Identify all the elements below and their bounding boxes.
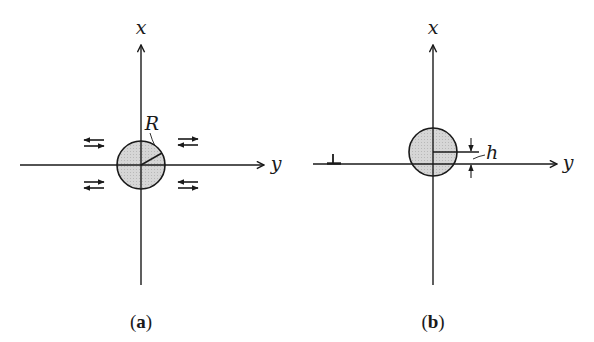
panel-a-caption: (a) (130, 311, 152, 333)
radius-label: R (144, 112, 159, 134)
y-axis-label: y (562, 151, 574, 173)
offset-leader-line (473, 155, 485, 159)
panel-a: x y R (a) (20, 16, 282, 333)
shear-arrows-top-right (178, 139, 198, 145)
shear-arrows-top-left (84, 140, 104, 146)
dislocation-icon (327, 154, 341, 164)
figure: x y R (a) x (0, 0, 594, 342)
panel-b: x y h (b) (313, 16, 574, 333)
shear-arrows-bottom-right (178, 182, 198, 188)
x-axis-label: x (428, 16, 439, 38)
shear-arrows-bottom-left (84, 182, 104, 188)
panel-b-caption: (b) (421, 311, 444, 333)
offset-label: h (486, 141, 498, 163)
y-axis-label: y (270, 152, 282, 174)
x-axis-label: x (136, 16, 147, 38)
